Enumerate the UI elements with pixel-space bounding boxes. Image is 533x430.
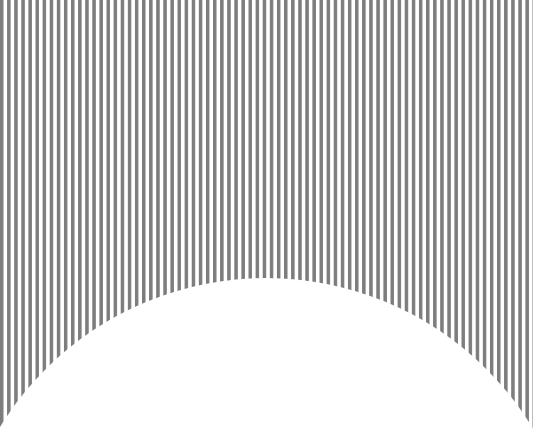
image-canvas — [0, 0, 533, 430]
striped-field — [0, 0, 533, 430]
striped-arc-figure — [0, 0, 533, 430]
